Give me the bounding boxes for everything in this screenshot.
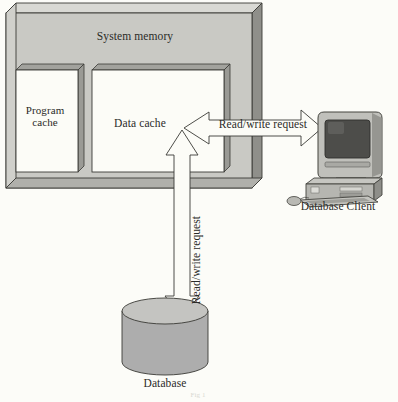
caption-fragment: Fig 1	[168, 392, 228, 400]
computer-case-drive-bay	[340, 187, 362, 191]
data-cache-label: Data cache	[100, 117, 180, 129]
horizontal-arrow-label: Read/write request	[213, 118, 313, 130]
computer-case-badge	[311, 187, 319, 193]
slab-right-bevel	[252, 3, 262, 188]
program-cache-shadow-right	[78, 64, 84, 172]
database-client-label: Database Client	[282, 200, 394, 212]
monitor-screen-glare	[328, 122, 344, 134]
monitor-side-shading	[372, 113, 382, 177]
database-label: Database	[110, 377, 220, 389]
program-cache-label: Program cache	[14, 105, 76, 129]
program-cache-shadow	[16, 64, 84, 70]
vertical-arrow-label: Read/write request	[190, 205, 202, 315]
monitor-control-strip	[325, 162, 370, 167]
system-memory-label: System memory	[60, 30, 210, 42]
slab-bottom-left-bevel	[6, 3, 16, 188]
data-cache-shadow-top	[92, 64, 230, 70]
diagram-canvas: System memory Program cache Data cache R…	[0, 0, 398, 402]
slab-bottom-bevel	[6, 178, 262, 188]
computer-case-top	[306, 178, 382, 184]
slab-top-bevel	[6, 3, 262, 13]
